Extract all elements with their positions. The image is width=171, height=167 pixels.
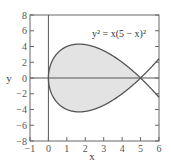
- x-tick-label: 2: [83, 143, 88, 154]
- y-axis-title: y: [6, 72, 12, 84]
- y-tick-label: −2: [16, 88, 27, 99]
- x-tick-label: 6: [157, 143, 162, 154]
- y-tick-label: 2: [22, 57, 27, 68]
- y-tick-label: 6: [22, 25, 27, 36]
- y-tick-label: 4: [22, 41, 27, 52]
- x-tick-label: 0: [46, 143, 51, 154]
- y-tick-label: −8: [16, 136, 27, 147]
- x-tick-label: 3: [101, 143, 106, 154]
- equation-label: y² = x(5 − x)²: [92, 28, 146, 40]
- x-tick-label: 5: [138, 143, 143, 154]
- x-tick-label: 1: [64, 143, 69, 154]
- x-tick-label: 4: [120, 143, 125, 154]
- y-tick-label: −6: [16, 120, 27, 131]
- x-axis-title: x: [89, 150, 95, 162]
- y-tick-label: 8: [22, 10, 27, 21]
- y-tick-label: 0: [22, 73, 27, 84]
- y-tick-label: −4: [16, 104, 27, 115]
- curve-chart: −10123456−8−6−4−202468 y² = x(5 − x)² x …: [0, 0, 171, 167]
